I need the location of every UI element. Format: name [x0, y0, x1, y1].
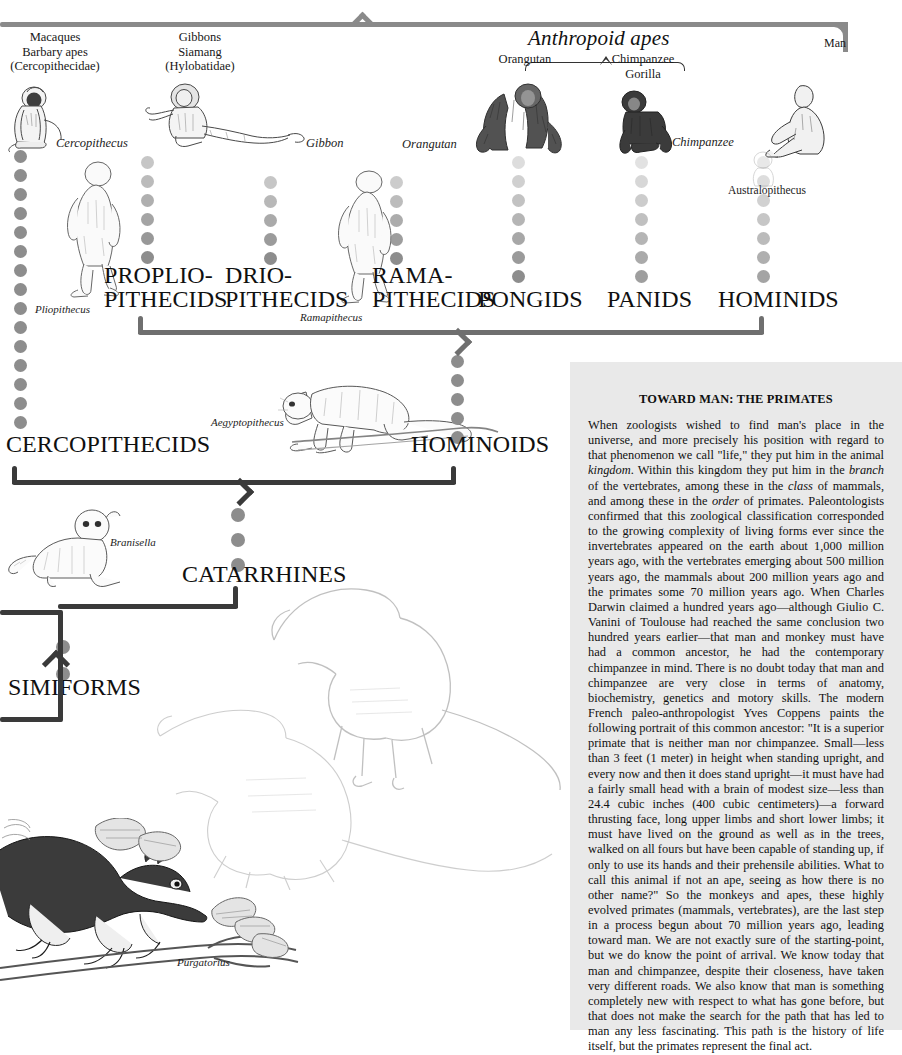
dot: [635, 175, 648, 188]
bracket-hominoids: [138, 316, 768, 354]
dot: [757, 194, 770, 207]
dot: [512, 251, 525, 264]
anthropoid-apes-title: Anthropoid apes: [528, 26, 670, 51]
bracket-catarrhines: [12, 466, 460, 504]
dot: [141, 194, 154, 207]
group-hylobatidae-line-1: Gibbons: [135, 30, 265, 45]
taxon-hominids: HOMINIDS: [718, 287, 839, 311]
dot: [512, 270, 525, 283]
dot: [635, 232, 648, 245]
dot: [757, 156, 770, 169]
dot: [264, 214, 277, 227]
dot: [512, 156, 525, 169]
anthropoid-member-orangutan: Orangutan: [470, 52, 580, 67]
group-hylobatidae-line-2: Siamang: [135, 45, 265, 60]
group-cercopithecidae: Macaques Barbary apes (Cercopithecidae): [0, 30, 120, 74]
bracket-simiforms: [0, 604, 240, 726]
dot: [757, 251, 770, 264]
dot: [512, 232, 525, 245]
caption-chimpanzee: Chimpanzee: [672, 135, 734, 150]
taxon-driopithecids-line-1: DRIO-: [225, 263, 292, 287]
anthropoid-member-orangutan-label: Orangutan: [470, 52, 580, 67]
dot: [14, 169, 27, 182]
group-cercopithecidae-line-2: Barbary apes: [0, 45, 120, 60]
caption-gibbon: Gibbon: [306, 136, 344, 151]
dot: [635, 194, 648, 207]
dot: [635, 270, 648, 283]
dot: [14, 245, 27, 258]
article-body: When zoologists wished to find man's pla…: [588, 418, 884, 1055]
dot: [757, 232, 770, 245]
dot: [141, 232, 154, 245]
dot: [14, 283, 27, 296]
dot: [231, 533, 245, 547]
dot: [231, 508, 245, 522]
caption-purgatorius: Purgatorius: [177, 956, 230, 968]
group-hylobatidae: Gibbons Siamang (Hylobatidae): [135, 30, 265, 74]
group-hylobatidae-line-3: (Hylobatidae): [135, 59, 265, 74]
illustration-orangutan: [468, 78, 580, 158]
dot: [14, 226, 27, 239]
taxon-propliopithecids-line-1: PROPLIO-: [104, 263, 213, 287]
dot: [14, 378, 27, 391]
dot: [14, 207, 27, 220]
dot: [757, 270, 770, 283]
dot: [512, 194, 525, 207]
dot: [390, 214, 403, 227]
dot: [14, 264, 27, 277]
dot: [635, 251, 648, 264]
dot: [14, 321, 27, 334]
top-rule-apex: [352, 6, 378, 26]
caption-orangutan: Orangutan: [402, 137, 457, 152]
taxon-panids: PANIDS: [607, 287, 692, 311]
dot: [264, 176, 277, 189]
dot: [757, 213, 770, 226]
dot: [141, 213, 154, 226]
caption-cercopithecus: Cercopithecus: [56, 136, 128, 151]
taxon-propliopithecids-line-2: PITHECIDS: [104, 287, 228, 311]
dot: [390, 176, 403, 189]
caption-branisella: Branisella: [110, 536, 156, 548]
taxon-catarrhines: CATARRHINES: [182, 562, 347, 586]
man-label: Man: [824, 36, 846, 51]
top-rule: [0, 22, 848, 27]
anthropoid-member-chimpanzee-label: Chimpanzee: [588, 52, 698, 67]
article-panel: TOWARD MAN: THE PRIMATES When zoologists…: [570, 362, 902, 1030]
dot: [512, 175, 525, 188]
taxon-driopithecids-line-2: PITHECIDS: [225, 287, 349, 311]
dot: [14, 302, 27, 315]
dot: [141, 156, 154, 169]
caption-aegyptopithecus: Aegyptopithecus: [211, 416, 284, 428]
dot: [141, 175, 154, 188]
dot: [635, 213, 648, 226]
dot: [14, 150, 27, 163]
bracket-simiforms-top-arm: [58, 604, 248, 614]
anthropoid-member-gorilla-label: Gorilla: [588, 67, 698, 82]
dot: [635, 156, 648, 169]
dot: [264, 195, 277, 208]
dot: [14, 416, 27, 429]
dot: [264, 233, 277, 246]
dot: [451, 374, 464, 387]
dot: [512, 213, 525, 226]
dot: [451, 393, 464, 406]
taxon-cercopithecids: CERCOPITHECIDS: [6, 432, 210, 456]
dot: [451, 412, 464, 425]
dot: [14, 359, 27, 372]
dot: [390, 233, 403, 246]
taxon-ramapithecids-line-1: RAMA-: [372, 263, 453, 287]
article-title: TOWARD MAN: THE PRIMATES: [570, 392, 902, 407]
group-cercopithecidae-line-1: Macaques: [0, 30, 120, 45]
dot: [14, 188, 27, 201]
dot: [757, 175, 770, 188]
illustration-purgatorius: [0, 818, 420, 1022]
caption-pliopithecus: Pliopithecus: [35, 303, 90, 315]
taxon-hominoids: HOMINOIDS: [411, 432, 549, 456]
illustration-man: [760, 78, 848, 160]
illustration-gibbon: [140, 80, 310, 155]
dot: [14, 397, 27, 410]
dot: [14, 340, 27, 353]
dot: [390, 195, 403, 208]
dot: [451, 355, 464, 368]
